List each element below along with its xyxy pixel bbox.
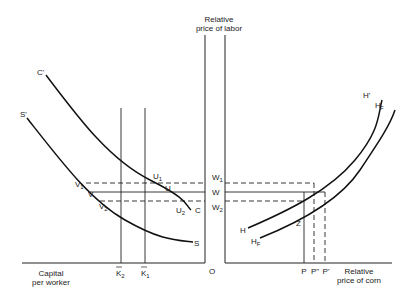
h-label: H bbox=[240, 226, 246, 235]
v2-label: V2 bbox=[99, 202, 108, 212]
w-label: W bbox=[212, 188, 220, 197]
h-prime-label: H' bbox=[363, 91, 371, 100]
s-label: S bbox=[194, 239, 199, 248]
left-x-label-1: Capital bbox=[39, 269, 64, 278]
right-x-label-2: price of corn bbox=[337, 276, 381, 285]
w1-label: W1 bbox=[212, 173, 224, 183]
origin-label: O bbox=[209, 267, 215, 276]
u-label: U bbox=[165, 184, 171, 193]
trade-diagram: Relative price of labor Capital per work… bbox=[0, 0, 411, 297]
p-label: P bbox=[301, 267, 306, 276]
hf-prime-label: H'F bbox=[375, 101, 384, 111]
svg-text:K2: K2 bbox=[116, 269, 125, 279]
h-curve bbox=[248, 100, 382, 228]
k2-label: K2 bbox=[116, 267, 125, 279]
vertical-axis-label-1: Relative bbox=[205, 15, 234, 24]
u2-label: U2 bbox=[176, 206, 186, 216]
s-prime-label: S' bbox=[20, 110, 27, 119]
c-label: C bbox=[195, 206, 201, 215]
v1-label: V1 bbox=[75, 180, 84, 190]
v-label: V bbox=[88, 190, 94, 199]
k1-label: K1 bbox=[141, 267, 150, 279]
left-x-label-2: per worker bbox=[32, 278, 70, 287]
p-double-prime-label: P" bbox=[311, 267, 319, 276]
vertical-axis-label-2: price of labor bbox=[196, 24, 243, 33]
z-label: Z bbox=[296, 219, 301, 228]
s-curve bbox=[27, 118, 193, 242]
w2-label: W2 bbox=[212, 203, 224, 213]
svg-text:K1: K1 bbox=[141, 269, 150, 279]
hf-label: HF bbox=[251, 237, 261, 247]
right-x-label-1: Relative bbox=[345, 267, 374, 276]
u1-label: U1 bbox=[153, 172, 163, 182]
c-prime-label: C' bbox=[37, 68, 45, 77]
p-prime-label: P' bbox=[323, 267, 330, 276]
